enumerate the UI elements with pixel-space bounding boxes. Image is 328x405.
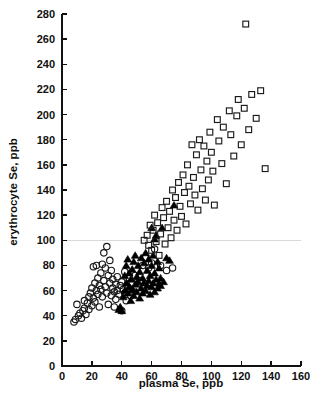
y-tick-label: 160 — [37, 159, 55, 171]
y-tick-label: 280 — [37, 8, 55, 20]
y-tick-label: 120 — [37, 209, 55, 221]
data-point-open-square — [262, 166, 268, 172]
data-point-open-square — [156, 252, 162, 258]
data-point-open-square — [189, 142, 195, 148]
data-point-open-square — [201, 143, 207, 149]
x-tick-label: 20 — [86, 370, 98, 382]
y-tick-label: 100 — [37, 234, 55, 246]
y-tick-label: 60 — [43, 285, 55, 297]
plot-canvas: 020406080100120140160180200220240260280 … — [0, 0, 328, 405]
data-point-open-square — [210, 168, 216, 174]
data-point-open-circle — [101, 250, 107, 256]
data-point-open-square — [177, 203, 183, 209]
data-point-open-square — [216, 138, 222, 144]
x-tick-label: 160 — [292, 370, 310, 382]
data-point-filled-triangle — [124, 256, 132, 263]
data-point-open-square — [182, 190, 188, 196]
x-tick-label: 0 — [59, 370, 65, 382]
series-filled-triangle — [115, 201, 178, 313]
data-point-open-square — [226, 108, 232, 114]
data-point-open-square — [176, 180, 182, 186]
series-open-square — [141, 21, 268, 258]
data-point-open-square — [223, 181, 229, 187]
data-point-open-square — [235, 97, 241, 103]
data-point-filled-triangle — [131, 252, 139, 259]
data-point-open-square — [186, 183, 192, 189]
data-point-open-square — [205, 177, 211, 183]
data-point-filled-triangle — [128, 266, 136, 273]
data-point-open-circle — [108, 267, 114, 273]
y-axis-tick-labels: 020406080100120140160180200220240260280 — [37, 8, 55, 372]
data-points-layer — [71, 21, 268, 325]
y-axis-ticks — [62, 14, 67, 366]
data-point-open-square — [188, 201, 194, 207]
data-point-open-circle — [86, 294, 92, 300]
x-tick-label: 40 — [116, 370, 128, 382]
data-point-open-square — [191, 175, 197, 181]
data-point-open-square — [200, 186, 206, 192]
data-point-open-square — [214, 117, 220, 123]
y-axis-title: erythrocyte Se, ppb — [7, 138, 19, 245]
data-point-open-square — [249, 92, 255, 98]
data-point-open-circle — [169, 265, 175, 271]
data-point-open-square — [159, 205, 165, 211]
data-point-open-square — [161, 215, 167, 221]
data-point-open-square — [228, 132, 234, 138]
data-point-open-square — [243, 21, 249, 27]
y-tick-label: 0 — [49, 360, 55, 372]
data-point-open-square — [183, 221, 189, 227]
data-point-open-square — [152, 212, 158, 218]
x-axis-title: plasma Se, ppb — [139, 377, 223, 389]
data-point-open-square — [195, 207, 201, 213]
y-tick-label: 40 — [43, 310, 55, 322]
data-point-open-square — [208, 149, 214, 155]
data-point-open-square — [170, 187, 176, 193]
data-point-open-square — [165, 225, 171, 231]
data-point-open-square — [198, 167, 204, 173]
y-tick-label: 20 — [43, 335, 55, 347]
data-point-open-square — [171, 217, 177, 223]
data-point-open-square — [246, 127, 252, 133]
data-point-open-square — [207, 129, 213, 135]
data-point-open-square — [204, 158, 210, 164]
data-point-open-circle — [96, 304, 102, 310]
data-point-open-square — [258, 88, 264, 94]
y-tick-label: 140 — [37, 184, 55, 196]
data-point-open-square — [185, 162, 191, 168]
data-point-open-square — [174, 227, 180, 233]
y-tick-label: 180 — [37, 134, 55, 146]
x-tick-label: 140 — [262, 370, 280, 382]
data-point-open-square — [164, 198, 170, 204]
data-point-open-square — [192, 192, 198, 198]
data-point-open-square — [179, 214, 185, 220]
data-point-open-circle — [74, 301, 80, 307]
data-point-filled-triangle — [155, 264, 163, 271]
data-point-open-square — [234, 113, 240, 119]
data-point-open-square — [155, 220, 161, 226]
data-point-open-square — [203, 197, 209, 203]
data-point-open-square — [238, 142, 244, 148]
scatter-plot-figure: 020406080100120140160180200220240260280 … — [0, 0, 328, 405]
data-point-open-square — [253, 115, 259, 121]
x-tick-label: 120 — [232, 370, 250, 382]
data-point-open-square — [168, 235, 174, 241]
data-point-open-square — [220, 124, 226, 130]
data-point-open-square — [180, 172, 186, 178]
y-tick-label: 80 — [43, 259, 55, 271]
y-tick-label: 240 — [37, 58, 55, 70]
data-point-open-square — [194, 152, 200, 158]
data-point-open-square — [167, 208, 173, 214]
x-axis-ticks — [62, 361, 301, 366]
data-point-open-square — [231, 153, 237, 159]
data-point-open-square — [162, 241, 168, 247]
y-tick-label: 260 — [37, 33, 55, 45]
data-point-open-circle — [107, 257, 113, 263]
y-tick-label: 200 — [37, 109, 55, 121]
y-tick-label: 220 — [37, 83, 55, 95]
data-point-filled-triangle — [122, 262, 130, 269]
data-point-open-circle — [104, 243, 110, 249]
data-point-open-square — [197, 137, 203, 143]
data-point-open-square — [173, 195, 179, 201]
data-point-open-square — [241, 105, 247, 111]
data-point-open-square — [211, 202, 217, 208]
